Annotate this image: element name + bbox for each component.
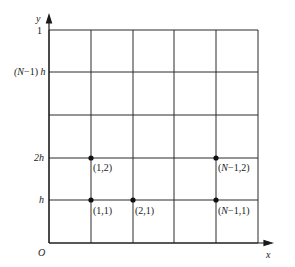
node-label-1-2: (1,2) bbox=[93, 163, 112, 173]
y-tick-n-minus-1-h: (N−1) h bbox=[14, 67, 45, 77]
node-label-n-minus-1-1: (N−1,1) bbox=[218, 206, 250, 216]
grid-node-dot bbox=[213, 197, 218, 202]
grid-node-dot bbox=[213, 155, 218, 160]
node-label-n-minus-1-2: (N−1,2) bbox=[218, 163, 250, 173]
node-label-1-1: (1,1) bbox=[93, 206, 112, 216]
grid-node-dot bbox=[88, 155, 93, 160]
origin-label: O bbox=[38, 248, 45, 258]
y-tick-h: h bbox=[39, 195, 44, 205]
x-axis-label: x bbox=[266, 250, 270, 260]
x-axis-arrow-icon bbox=[264, 241, 272, 246]
grid-node-dot bbox=[88, 197, 93, 202]
y-axis-label: y bbox=[36, 14, 40, 24]
grid-node-dot bbox=[130, 197, 135, 202]
node-label-2-1: (2,1) bbox=[135, 206, 154, 216]
y-tick-1: 1 bbox=[37, 26, 42, 36]
grid-diagram bbox=[0, 0, 295, 267]
y-axis-arrow-icon bbox=[47, 15, 52, 23]
y-tick-2h: 2h bbox=[34, 153, 44, 163]
